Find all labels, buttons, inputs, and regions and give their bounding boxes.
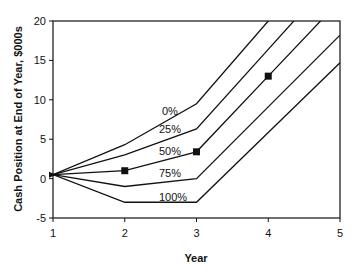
y-tick-label: 10 xyxy=(34,94,46,106)
y-tick-label: 5 xyxy=(40,133,46,145)
x-tick-label: 1 xyxy=(50,227,56,239)
series-label-100: 100% xyxy=(159,191,187,203)
square-marker xyxy=(121,167,128,174)
square-marker xyxy=(265,73,272,80)
y-tick-label: -5 xyxy=(36,212,46,224)
plot-area xyxy=(53,21,340,218)
x-axis-title: Year xyxy=(184,252,208,264)
y-tick-label: 15 xyxy=(34,54,46,66)
plot-frame xyxy=(53,21,340,218)
series-label-25: 25% xyxy=(159,123,181,135)
series-label-0: 0% xyxy=(162,105,178,117)
y-tick-label: 0 xyxy=(40,173,46,185)
y-axis: 20151050-5 xyxy=(34,15,53,224)
x-tick-label: 4 xyxy=(265,227,271,239)
cash-position-chart: 20151050-5 12345 0% 25% 50% 75% 100% Yea… xyxy=(0,0,353,274)
y-axis-title: Cash Position at End of Year, $000s xyxy=(12,26,24,212)
x-tick-label: 5 xyxy=(337,227,343,239)
y-tick-label: 20 xyxy=(34,15,46,27)
x-axis: 12345 xyxy=(50,218,343,239)
x-tick-label: 2 xyxy=(122,227,128,239)
x-tick-label: 3 xyxy=(193,227,199,239)
series-label-50: 50% xyxy=(159,145,181,157)
series-label-75: 75% xyxy=(159,167,181,179)
square-marker xyxy=(193,148,200,155)
